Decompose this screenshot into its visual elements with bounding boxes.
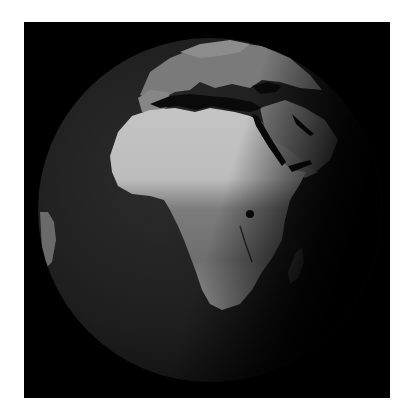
night-shadow [38,38,382,382]
space-background [24,22,390,398]
globe-illustration [24,22,390,398]
